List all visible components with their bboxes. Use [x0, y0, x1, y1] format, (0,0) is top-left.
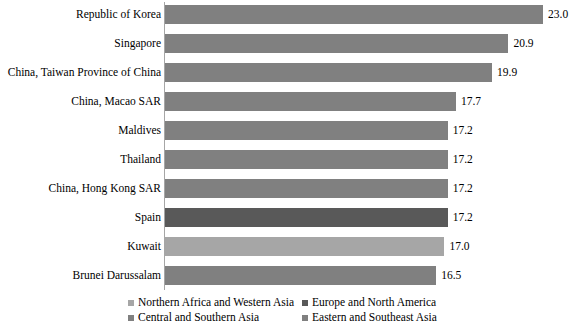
- bar: [165, 5, 543, 24]
- plot-area: Republic of Korea23.0Singapore20.9China,…: [0, 0, 578, 292]
- legend-swatch-icon: [302, 300, 308, 306]
- bar-value-label: 17.2: [453, 116, 473, 145]
- bar-row: Maldives17.2: [0, 116, 578, 145]
- bar: [165, 92, 456, 111]
- bar: [165, 179, 448, 198]
- legend-item[interactable]: Central and Southern Asia: [128, 311, 294, 324]
- bar: [165, 237, 444, 256]
- legend-label: Europe and North America: [312, 296, 436, 309]
- bar-value-label: 19.9: [497, 58, 517, 87]
- bar-row: China, Taiwan Province of China19.9: [0, 58, 578, 87]
- category-label: Singapore: [114, 29, 161, 58]
- category-label: Brunei Darussalam: [73, 261, 161, 290]
- legend-item[interactable]: Eastern and Southeast Asia: [302, 311, 437, 324]
- legend-label: Northern Africa and Western Asia: [138, 296, 294, 309]
- bar-value-label: 16.5: [441, 261, 461, 290]
- bar-value-label: 17.0: [449, 232, 469, 261]
- legend-item[interactable]: Europe and North America: [302, 296, 437, 309]
- bar-row: Brunei Darussalam16.5: [0, 261, 578, 290]
- legend-swatch-icon: [128, 300, 134, 306]
- legend-label: Central and Southern Asia: [138, 311, 259, 324]
- category-label: Spain: [135, 203, 161, 232]
- category-label: China, Macao SAR: [71, 87, 161, 116]
- bar-value-label: 17.2: [453, 174, 473, 203]
- category-label: China, Hong Kong SAR: [49, 174, 161, 203]
- bar-row: Singapore20.9: [0, 29, 578, 58]
- bar: [165, 150, 448, 169]
- legend-label: Eastern and Southeast Asia: [312, 311, 437, 324]
- category-label: Kuwait: [127, 232, 161, 261]
- category-label: Republic of Korea: [76, 0, 161, 29]
- bar-row: Kuwait17.0: [0, 232, 578, 261]
- legend-column-left: Northern Africa and Western AsiaCentral …: [128, 296, 294, 326]
- bar: [165, 208, 448, 227]
- category-label: China, Taiwan Province of China: [8, 58, 161, 87]
- bar-value-label: 17.2: [453, 145, 473, 174]
- legend-column-right: Europe and North AmericaEastern and Sout…: [302, 296, 437, 326]
- bar-row: China, Hong Kong SAR17.2: [0, 174, 578, 203]
- bar: [165, 121, 448, 140]
- bar: [165, 266, 436, 285]
- bar-value-label: 23.0: [548, 0, 568, 29]
- chart-legend: Northern Africa and Western AsiaCentral …: [0, 296, 578, 334]
- bar-value-label: 20.9: [513, 29, 533, 58]
- bar-row: Republic of Korea23.0: [0, 0, 578, 29]
- bar: [165, 34, 508, 53]
- bar-row: Spain17.2: [0, 203, 578, 232]
- legend-swatch-icon: [302, 315, 308, 321]
- bar-chart: Republic of Korea23.0Singapore20.9China,…: [0, 0, 578, 334]
- bar-value-label: 17.2: [453, 203, 473, 232]
- legend-item[interactable]: Northern Africa and Western Asia: [128, 296, 294, 309]
- bar-row: China, Macao SAR17.7: [0, 87, 578, 116]
- category-label: Maldives: [118, 116, 161, 145]
- bar-row: Thailand17.2: [0, 145, 578, 174]
- bar-value-label: 17.7: [461, 87, 481, 116]
- bar: [165, 63, 492, 82]
- category-label: Thailand: [120, 145, 161, 174]
- legend-swatch-icon: [128, 315, 134, 321]
